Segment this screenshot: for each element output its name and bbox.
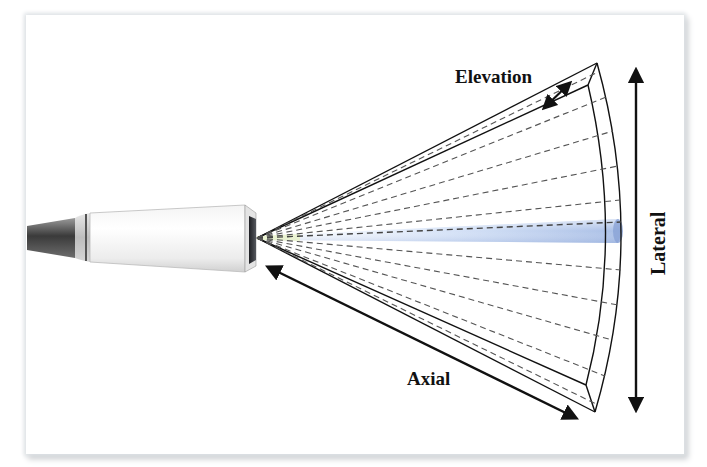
top-outer-edge	[257, 63, 597, 238]
probe-body	[90, 205, 245, 272]
ultrasound-beam-diagram: Elevation Axial Lateral	[0, 0, 707, 467]
focused-beam	[257, 219, 623, 243]
top-inner-edge	[257, 85, 588, 238]
probe-cable	[27, 218, 75, 258]
axial-arrow	[268, 267, 576, 418]
axial-label: Axial	[407, 368, 450, 389]
transducer-probe	[27, 205, 256, 272]
elevation-label: Elevation	[455, 66, 532, 87]
lateral-label: Lateral	[647, 211, 669, 275]
probe-transducer-face	[249, 216, 256, 264]
probe-neck	[75, 213, 90, 262]
bottom-inner-edge	[257, 238, 586, 385]
